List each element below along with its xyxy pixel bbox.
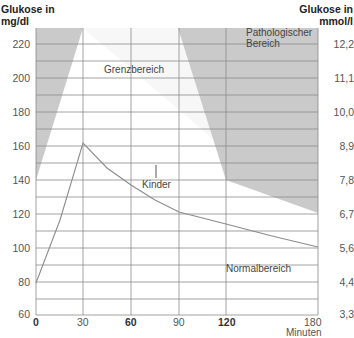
y-tick-left-120: 120 (0, 208, 30, 220)
pathologisch-label: Pathologischer Bereich (246, 27, 312, 49)
y-tick-left-140: 140 (0, 174, 30, 186)
y-tick-right-3-3: 3,3 (326, 308, 354, 320)
pathologisch-label-line1: Pathologischer (246, 27, 312, 38)
x-tick-30: 30 (77, 316, 89, 328)
y-tick-left-200: 200 (0, 72, 30, 84)
pathologisch-label-line2: Bereich (246, 38, 312, 49)
y-tick-right-12-2: 12,2 (326, 38, 354, 50)
x-tick-60: 60 (125, 316, 137, 328)
x-tick-0: 0 (33, 316, 39, 328)
y-tick-left-100: 100 (0, 242, 30, 254)
y-tick-right-11-1: 11,1 (326, 72, 354, 84)
x-tick-90: 90 (173, 316, 185, 328)
normalbereich-label: Normalbereich (226, 263, 291, 274)
y-tick-right-7-8: 7,8 (326, 174, 354, 186)
x-tick-120: 120 (218, 316, 236, 328)
y-tick-right-5-6: 5,6 (326, 242, 354, 254)
grenzbereich-label: Grenzbereich (104, 64, 164, 75)
y-tick-right-10-0: 10,0 (326, 106, 354, 118)
y-tick-left-160: 160 (0, 140, 30, 152)
y-tick-left-80: 80 (0, 276, 30, 288)
x-axis-unit: Minuten (286, 327, 322, 338)
y-tick-left-180: 180 (0, 106, 30, 118)
y-tick-right-4-4: 4,4 (326, 276, 354, 288)
y-tick-left-60: 60 (0, 308, 30, 320)
y-tick-right-6-7: 6,7 (326, 208, 354, 220)
kinder-label: Kinder (142, 179, 171, 190)
y-tick-right-8-9: 8,9 (326, 140, 354, 152)
y-tick-left-220: 220 (0, 38, 30, 50)
